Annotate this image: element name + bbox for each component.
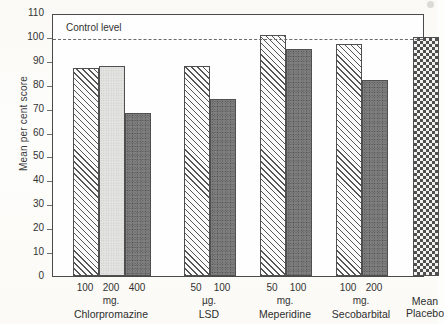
bar — [73, 68, 99, 276]
y-tick-label: 60 — [16, 128, 44, 138]
bar — [184, 66, 210, 276]
bar — [336, 44, 362, 276]
dose-label: 50 — [190, 282, 201, 293]
dose-label: 200 — [103, 282, 120, 293]
unit-label: mg. — [353, 295, 370, 306]
dose-label: 400 — [129, 282, 146, 293]
y-tick-label: 110 — [16, 8, 44, 18]
y-tick-label: 40 — [16, 175, 44, 185]
control-level-label: Control level — [66, 22, 122, 33]
group-label: LSD — [199, 308, 219, 320]
group-label: Meperidine — [259, 308, 311, 320]
bar — [413, 37, 439, 276]
bar — [286, 49, 312, 276]
dose-label: 100 — [290, 282, 307, 293]
bar — [125, 113, 151, 276]
y-tick-label: 70 — [16, 104, 44, 114]
group-label-line: Mean — [406, 295, 444, 307]
group-label-line: Placebo — [406, 307, 444, 319]
dose-label: 50 — [266, 282, 277, 293]
bar — [210, 99, 236, 276]
plot-area: Control level — [52, 14, 424, 277]
control-level-line — [53, 39, 423, 40]
y-tick-label: 30 — [16, 199, 44, 209]
dose-label: 200 — [366, 282, 383, 293]
unit-label: mg. — [103, 295, 120, 306]
group-label: Secobarbital — [332, 308, 390, 320]
group-label: MeanPlacebo — [406, 295, 444, 319]
dose-label: 100 — [340, 282, 357, 293]
group-label: Chlorpromazine — [74, 308, 148, 320]
y-tick-label: 50 — [16, 151, 44, 161]
y-tick-label: 20 — [16, 223, 44, 233]
bar — [260, 35, 286, 276]
y-tick-label: 10 — [16, 247, 44, 257]
unit-label: µg. — [202, 295, 216, 306]
y-tick-label: 100 — [16, 32, 44, 42]
bar — [99, 66, 125, 276]
unit-label: mg. — [277, 295, 294, 306]
bar — [362, 80, 388, 276]
y-tick-label: 0 — [16, 271, 44, 281]
dose-label: 100 — [214, 282, 231, 293]
y-tick-label: 80 — [16, 80, 44, 90]
dose-label: 100 — [77, 282, 94, 293]
y-tick-label: 90 — [16, 56, 44, 66]
scan-artifact-dot — [427, 1, 434, 8]
